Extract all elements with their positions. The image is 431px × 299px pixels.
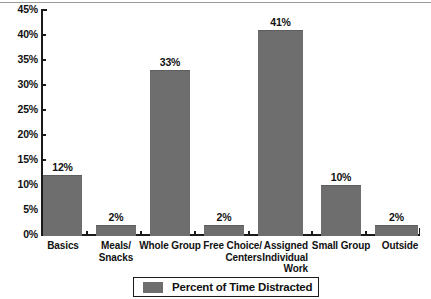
x-category-line-1: Free Choice/ [203,240,262,251]
y-tick-35 [41,59,46,61]
y-tick-40 [41,34,46,36]
y-tick-label-30: 30% [0,79,38,89]
legend-label-percent-of-time-distracted: Percent of Time Distracted [172,281,312,293]
y-tick-label-35: 35% [0,54,38,64]
y-tick-30 [41,84,46,86]
y-tick-15 [41,159,46,161]
x-tick-2 [140,231,142,236]
x-tick-6 [365,231,367,236]
bar-value-meals-snacks: 2% [95,212,137,223]
bar-value-free-choice-centers: 2% [203,212,245,223]
x-tick-5 [311,231,313,236]
x-tick-3 [194,231,196,236]
x-category-label-whole-group: Whole Group [138,240,202,252]
chart-legend: Percent of Time Distracted [133,277,319,297]
bar-value-basics: 12% [42,162,83,173]
chart-figure: 45% 40% 35% 30% 25% 20% 15% 10% 5% 0% 12… [0,0,431,299]
y-tick-45 [41,9,46,11]
bar-value-whole-group: 33% [149,57,191,68]
x-category-label-assigned-individual-work: Assigned Individual Work [258,240,308,275]
x-category-label-basics: Basics [40,240,86,252]
bar-whole-group [150,70,190,236]
x-category-line-1: Whole Group [139,240,201,251]
x-tick-4 [248,231,250,236]
plot-area: 45% 40% 35% 30% 25% 20% 15% 10% 5% 0% 12… [0,0,431,240]
x-category-line-2: Centers [194,252,262,264]
legend-swatch-percent-of-time-distracted [143,282,163,293]
x-category-line-1: Meals/ [101,240,131,251]
bar-value-assigned-individual-work: 41% [257,17,304,28]
y-tick-label-5: 5% [0,204,38,214]
bar-assigned-individual-work [258,30,303,236]
x-axis-right-cap [419,228,421,236]
x-category-line-1: Small Group [312,240,370,251]
y-tick-label-40: 40% [0,29,38,39]
x-category-label-free-choice-centers: Free Choice/ Centers [194,240,262,263]
bar-value-small-group: 10% [320,172,362,183]
x-category-line-2: Snacks [93,252,139,264]
y-tick-20 [41,134,46,136]
x-category-label-small-group: Small Group [310,240,372,252]
x-category-line-1: Outside [382,240,419,251]
y-tick-label-20: 20% [0,129,38,139]
x-category-line-1: Basics [47,240,79,251]
bar-value-outside: 2% [375,212,418,223]
bar-meals-snacks [96,225,136,236]
bar-free-choice-centers [204,225,244,236]
y-tick-label-15: 15% [0,154,38,164]
x-category-line-2: Individual [258,252,308,264]
y-tick-label-10: 10% [0,179,38,189]
x-tick-1 [86,231,88,236]
y-tick-25 [41,109,46,111]
y-tick-label-25: 25% [0,104,38,114]
x-category-label-meals-snacks: Meals/ Snacks [93,240,139,263]
x-category-line-3: Work [258,263,308,275]
y-tick-label-0: 0% [0,229,38,239]
bar-small-group [321,185,361,236]
y-tick-label-45: 45% [0,4,38,14]
bar-outside [375,225,418,236]
bar-basics [43,175,82,236]
x-category-label-outside: Outside [376,240,424,252]
x-category-line-1: Assigned [264,240,308,251]
